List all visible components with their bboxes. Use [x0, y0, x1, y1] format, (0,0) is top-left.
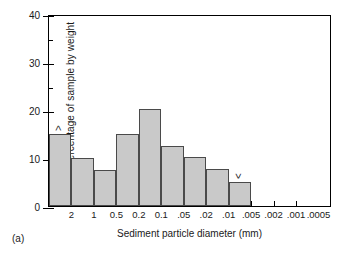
plot-area: Percentage of sample by weight 010203040…: [48, 15, 331, 207]
y-inner-tick-20: [49, 112, 54, 113]
y-tick-label-20: 20: [6, 107, 40, 117]
annotation-greater-than: >: [54, 125, 64, 131]
x-tick-.005: [251, 201, 252, 206]
y-tick-label-0: 0: [6, 203, 40, 213]
y-inner-tick-0: [49, 208, 54, 209]
y-tick-label-40: 40: [6, 11, 40, 21]
bar-2-1: [71, 158, 93, 206]
x-tick-label-.01: .01: [222, 210, 235, 220]
bar-1-0.5: [94, 170, 116, 206]
y-tick-label-10: 10: [6, 155, 40, 165]
bar-0.1-.05: [161, 146, 183, 206]
bar-.02-.01: [206, 169, 228, 206]
x-tick-.001: [296, 201, 297, 206]
x-axis-title: Sediment particle diameter (mm): [48, 228, 331, 239]
bar-.05-.02: [184, 157, 206, 206]
x-tick-label-.001: .001: [287, 210, 306, 220]
y-minor-tick-35: [49, 40, 53, 41]
x-tick-label-.0005: .0005: [307, 210, 331, 220]
x-tick-label-0.2: 0.2: [132, 210, 145, 220]
x-tick-label-.02: .02: [200, 210, 213, 220]
bar-.01-.005: [229, 182, 251, 206]
x-tick-label-2: 2: [69, 210, 74, 220]
x-tick-label-0.5: 0.5: [110, 210, 123, 220]
bar-0.2-0.1: [139, 109, 161, 206]
y-inner-tick-40: [49, 16, 54, 17]
x-tick-label-0.1: 0.1: [155, 210, 168, 220]
bar->2: [49, 134, 71, 206]
y-inner-tick-30: [49, 64, 54, 65]
sediment-particle-size-histogram: Percentage of sample by weight 010203040…: [0, 0, 364, 254]
y-tick-label-30: 30: [6, 59, 40, 69]
x-tick-.002: [274, 201, 275, 206]
x-tick-label-.05: .05: [177, 210, 190, 220]
y-minor-tick-25: [49, 88, 53, 89]
panel-label: (a): [12, 233, 24, 244]
x-tick-label-.002: .002: [264, 210, 283, 220]
x-tick-label-.005: .005: [242, 210, 261, 220]
x-tick-label-1: 1: [91, 210, 96, 220]
bar-0.5-0.2: [116, 134, 138, 206]
annotation-less-than: <: [234, 173, 244, 179]
